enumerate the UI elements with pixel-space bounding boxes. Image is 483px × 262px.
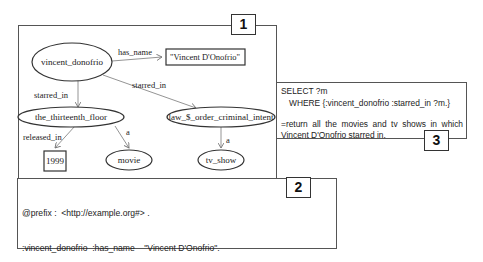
label-name-literal: "Vincent D'Onofrio" (170, 52, 240, 62)
label-vincent: vincent_donofrio (41, 57, 103, 67)
query-where: WHERE {:vincent_donofrio :starred_in ?m.… (289, 98, 450, 109)
edge-label-released-in: released_in (23, 132, 62, 142)
panel-badge-2: 2 (286, 177, 311, 198)
edge-label-a-tv: a (226, 135, 230, 145)
panel-badge-1: 1 (231, 14, 256, 35)
label-movie: movie (118, 155, 141, 165)
turtle-line: @prefix : <http://example.org#> . (22, 208, 338, 220)
edge-label-starred-in-left: starred_in (34, 90, 69, 100)
edge-label-starred-in-right: starred_in (132, 80, 167, 90)
turtle-line: :vincent_donofrio :has_name "Vincent D'O… (22, 243, 338, 255)
label-thirteenth: the_thirteenth_floor (35, 112, 107, 122)
label-year: 1999 (46, 156, 65, 166)
query-select: SELECT ?m (281, 86, 327, 97)
panel-badge-3: 3 (424, 130, 449, 151)
edge-label-a-movie: a (126, 127, 130, 137)
label-tv-show: tv_show (206, 155, 237, 165)
edge-label-has-name: has_name (118, 47, 152, 57)
label-law: law_$_order_criminal_intent (169, 112, 274, 122)
